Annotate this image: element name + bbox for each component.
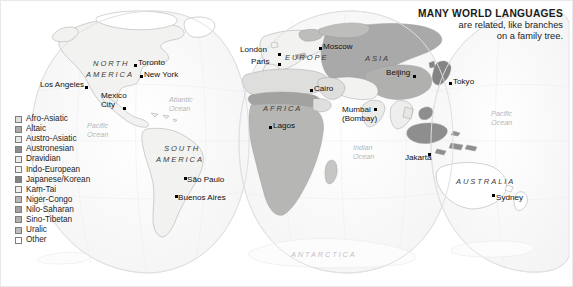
- city-marker-london[interactable]: [278, 53, 281, 56]
- city-label-sydney: Sydney: [496, 193, 523, 202]
- continent-label-australia: AUSTRALIA: [456, 177, 515, 186]
- ocean-label-line-1: Atlantic: [169, 95, 193, 104]
- legend-item-label: Indo-European: [26, 165, 80, 175]
- city-label-line-1: Los Angeles: [40, 80, 84, 89]
- city-label-line-1: New York: [144, 70, 178, 79]
- subtitle-line-1: are related, like branches: [418, 20, 563, 31]
- legend-item-label: Austronesian: [26, 144, 74, 154]
- legend-item-austro-asiatic[interactable]: Austro-Asiatic: [15, 134, 90, 144]
- city-label-line-1: Buenos Aires: [178, 193, 226, 202]
- ocean-label-line-2: Ocean: [491, 118, 512, 127]
- legend-item-altaic[interactable]: Altaic: [15, 124, 90, 134]
- city-label-line-1: Sydney: [496, 193, 523, 202]
- page-title: MANY WORLD LANGUAGES: [418, 8, 563, 20]
- city-marker-los-angeles[interactable]: [85, 86, 88, 89]
- city-label-lagos: Lagos: [273, 121, 295, 130]
- ocean-label-pacific-ocean-west: PacificOcean: [491, 109, 512, 127]
- legend-swatch-icon: [15, 126, 22, 133]
- city-label-toronto: Toronto: [138, 58, 165, 67]
- legend-item-uralic[interactable]: Uralic: [15, 225, 90, 235]
- ocean-label-indian-ocean: IndianOcean: [353, 143, 374, 161]
- city-marker-mexico-city[interactable]: [123, 107, 126, 110]
- language-family-legend: Afro-AsiaticAltaicAustro-AsiaticAustrone…: [15, 114, 90, 245]
- legend-item-dravidian[interactable]: Dravidian: [15, 154, 90, 164]
- legend-item-label: Uralic: [26, 225, 47, 235]
- legend-swatch-icon: [15, 156, 22, 163]
- legend-swatch-icon: [15, 186, 22, 193]
- city-label-paris: Paris: [251, 57, 269, 66]
- city-marker-moscow[interactable]: [319, 47, 322, 50]
- legend-item-label: Other: [26, 235, 46, 245]
- legend-swatch-icon: [15, 216, 22, 223]
- city-marker-paris[interactable]: [278, 63, 281, 66]
- ocean-label-line-2: Ocean: [353, 152, 374, 161]
- city-marker-sao-paulo[interactable]: [184, 177, 187, 180]
- continent-label-south-america: AMERICA: [156, 155, 204, 164]
- city-marker-mumbai[interactable]: [374, 108, 377, 111]
- legend-item-sino-tibetan[interactable]: Sino-Tibetan: [15, 215, 90, 225]
- legend-item-niger-congo[interactable]: Niger-Congo: [15, 195, 90, 205]
- ocean-label-line-2: Ocean: [169, 104, 193, 113]
- legend-swatch-icon: [15, 196, 22, 203]
- ocean-label-line-1: Indian: [353, 143, 374, 152]
- city-label-line-1: London: [240, 45, 267, 54]
- city-label-new-york: New York: [144, 70, 178, 79]
- city-label-line-1: São Paulo: [187, 175, 224, 184]
- legend-swatch-icon: [15, 206, 22, 213]
- legend-swatch-icon: [15, 116, 22, 123]
- legend-item-label: Afro-Asiatic: [26, 114, 68, 124]
- city-label-line-1: Cairo: [314, 84, 333, 93]
- city-marker-beijing[interactable]: [413, 75, 416, 78]
- legend-swatch-icon: [15, 176, 22, 183]
- legend-item-other[interactable]: Other: [15, 235, 90, 245]
- city-label-cairo: Cairo: [314, 84, 333, 93]
- city-label-sao-paulo: São Paulo: [187, 175, 224, 184]
- city-marker-tokyo[interactable]: [449, 82, 452, 85]
- city-label-line-1: Moscow: [323, 42, 353, 51]
- legend-swatch-icon: [15, 166, 22, 173]
- city-marker-new-york[interactable]: [140, 75, 143, 78]
- city-label-line-1: Toronto: [138, 58, 165, 67]
- city-label-tokyo: Tokyo: [453, 77, 474, 86]
- subtitle-line-2: on a family tree.: [418, 31, 563, 42]
- legend-swatch-icon: [15, 237, 22, 244]
- world-language-families-map: MANY WORLD LANGUAGES are related, like b…: [0, 0, 573, 287]
- city-label-los-angeles: Los Angeles: [40, 80, 84, 89]
- city-marker-jakarta[interactable]: [428, 153, 431, 156]
- city-marker-buenos-aires[interactable]: [175, 195, 178, 198]
- city-label-line-1: Beijing: [386, 68, 410, 77]
- legend-item-japanese-korean[interactable]: Japanese/Korean: [15, 175, 90, 185]
- legend-item-label: Kam-Tai: [26, 185, 56, 195]
- city-marker-lagos[interactable]: [269, 126, 272, 129]
- city-label-line-1: Lagos: [273, 121, 295, 130]
- continent-label-north-america: AMERICA: [86, 70, 134, 79]
- city-marker-toronto[interactable]: [134, 64, 137, 67]
- continent-label-north-america: NORTH: [93, 59, 129, 68]
- city-marker-sydney[interactable]: [492, 194, 495, 197]
- continent-label-south-america: SOUTH: [164, 144, 200, 153]
- legend-item-nilo-saharan[interactable]: Nilo-Saharan: [15, 205, 90, 215]
- city-label-mumbai: Mumbai(Bombay): [342, 106, 377, 124]
- legend-item-indo-european[interactable]: Indo-European: [15, 164, 90, 174]
- legend-item-label: Altaic: [26, 124, 46, 134]
- legend-item-afro-asiatic[interactable]: Afro-Asiatic: [15, 114, 90, 124]
- ocean-label-line-1: Pacific: [491, 109, 512, 118]
- city-marker-cairo[interactable]: [310, 89, 313, 92]
- continent-label-europe: EUROPE: [285, 53, 328, 62]
- legend-swatch-icon: [15, 136, 22, 143]
- legend-item-kam-tai[interactable]: Kam-Tai: [15, 185, 90, 195]
- legend-item-label: Dravidian: [26, 154, 61, 164]
- legend-item-austronesian[interactable]: Austronesian: [15, 144, 90, 154]
- legend-item-label: Nilo-Saharan: [26, 205, 74, 215]
- legend-item-label: Niger-Congo: [26, 195, 72, 205]
- title-block: MANY WORLD LANGUAGES are related, like b…: [418, 8, 563, 43]
- city-label-line-2: (Bombay): [342, 115, 377, 124]
- city-label-beijing: Beijing: [386, 68, 410, 77]
- city-label-line-1: Paris: [251, 57, 269, 66]
- legend-swatch-icon: [15, 227, 22, 234]
- continent-label-asia: ASIA: [365, 54, 390, 63]
- city-label-london: London: [240, 45, 267, 54]
- legend-item-label: Sino-Tibetan: [26, 215, 72, 225]
- ocean-label-atlantic-ocean: AtlanticOcean: [169, 95, 193, 113]
- continent-label-antarctica: ANTARCTICA: [291, 250, 357, 259]
